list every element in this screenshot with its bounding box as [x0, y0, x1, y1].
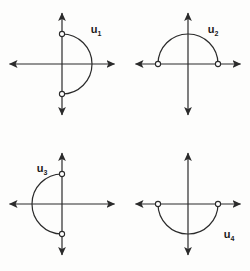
label-base: u — [37, 162, 44, 174]
label-subscript: 2 — [214, 30, 218, 37]
label-base: u — [91, 23, 98, 35]
endpoint-open-circle-1 — [59, 171, 64, 176]
endpoint-open-circle-2 — [59, 231, 64, 236]
figure-root: u1u2u3u4 — [0, 0, 250, 271]
endpoint-open-circle-2 — [215, 61, 220, 66]
four-panel-semicircle-figure: u1u2u3u4 — [0, 0, 250, 271]
endpoint-open-circle-1 — [155, 201, 160, 206]
label-subscript: 4 — [230, 235, 234, 242]
label-subscript: 1 — [97, 30, 101, 37]
endpoint-open-circle-1 — [155, 61, 160, 66]
endpoint-open-circle-1 — [59, 31, 64, 36]
endpoint-open-circle-2 — [59, 91, 64, 96]
label-subscript: 3 — [43, 169, 47, 176]
figure-background — [0, 0, 250, 271]
endpoint-open-circle-2 — [215, 201, 220, 206]
label-base: u — [208, 23, 215, 35]
label-base: u — [224, 228, 231, 240]
